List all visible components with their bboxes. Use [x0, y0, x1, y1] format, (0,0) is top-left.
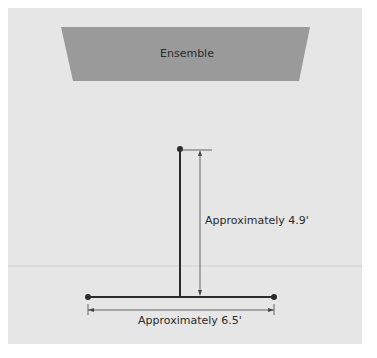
vertical-dimension-label: Approximately 4.9' [205, 214, 309, 227]
horizontal-dimension-arrow-right [268, 308, 274, 312]
stand-left-endpoint [85, 294, 91, 300]
horizontal-dimension-label: Approximately 6.5' [138, 314, 242, 327]
horizontal-dimension-arrow-left [88, 308, 94, 312]
vertical-dimension-arrow-bottom [198, 290, 202, 296]
vertical-dimension-arrow-top [198, 150, 202, 156]
ensemble-label: Ensemble [160, 47, 214, 60]
stand-right-endpoint [271, 294, 277, 300]
stand-top-endpoint [177, 146, 183, 152]
